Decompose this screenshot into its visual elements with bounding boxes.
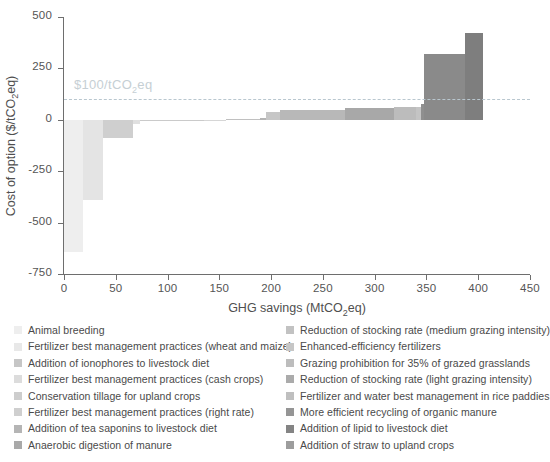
legend-swatch (286, 375, 294, 383)
legend-item: Reduction of stocking rate (light grazin… (286, 371, 550, 387)
legend-label: Fertilizer best management practices (ri… (28, 407, 254, 418)
y-tick-mark (58, 17, 63, 18)
legend-label: Addition of ionophores to livestock diet (28, 358, 209, 369)
y-tick-mark (58, 274, 63, 275)
legend-swatch (286, 343, 294, 351)
x-tick-label: 150 (199, 282, 239, 294)
legend-swatch (286, 326, 294, 334)
bar (83, 120, 104, 201)
y-tick-mark (58, 68, 63, 69)
bar (280, 110, 344, 120)
x-tick-label: 400 (458, 282, 498, 294)
legend-item: Animal breeding (14, 322, 292, 338)
threshold-label: $100/tCO2eq (74, 77, 152, 95)
x-tick-mark (64, 275, 65, 280)
legend-item: Fertilizer best management practices (ri… (14, 404, 292, 420)
legend-column-right: Reduction of stocking rate (medium grazi… (286, 322, 550, 453)
threshold-line (64, 99, 530, 100)
legend-swatch (14, 375, 22, 383)
legend-swatch (286, 425, 294, 433)
legend-item: Anaerobic digestion of manure (14, 437, 292, 453)
legend-label: Enhanced-efficiency fertilizers (300, 341, 441, 352)
x-tick-mark (116, 275, 117, 280)
legend-swatch (14, 326, 22, 334)
x-tick-label: 450 (510, 282, 550, 294)
x-tick-label: 100 (148, 282, 188, 294)
x-tick-label: 0 (44, 282, 84, 294)
legend-item: Enhanced-efficiency fertilizers (286, 338, 550, 354)
legend-swatch (14, 441, 22, 449)
legend-swatch (286, 408, 294, 416)
legend-swatch (14, 408, 22, 416)
legend-swatch (286, 392, 294, 400)
bar (103, 120, 133, 138)
legend-label: Fertilizer best management practices (ca… (28, 374, 263, 385)
legend-label: Fertilizer best management practices (wh… (28, 341, 292, 352)
legend-label: Conservation tillage for upland crops (28, 391, 200, 402)
bar (345, 108, 395, 120)
legend-swatch (286, 359, 294, 367)
legend-label: Reduction of stocking rate (light grazin… (300, 374, 532, 385)
x-tick-mark (530, 275, 531, 280)
legend-swatch (14, 343, 22, 351)
legend-swatch (14, 359, 22, 367)
legend-item: More efficient recycling of organic manu… (286, 404, 550, 420)
x-tick-mark (323, 275, 324, 280)
y-tick-mark (58, 120, 63, 121)
x-tick-mark (478, 275, 479, 280)
x-tick-mark (271, 275, 272, 280)
legend-swatch (14, 392, 22, 400)
x-tick-label: 200 (251, 282, 291, 294)
legend-item: Addition of ionophores to livestock diet (14, 355, 292, 371)
bar (204, 120, 226, 121)
x-axis-line (63, 274, 530, 275)
x-tick-label: 250 (303, 282, 343, 294)
y-tick-label: 250 (12, 60, 52, 72)
legend-label: Anaerobic digestion of manure (28, 440, 172, 451)
x-tick-mark (375, 275, 376, 280)
bar (394, 107, 416, 119)
x-tick-label: 300 (355, 282, 395, 294)
bar (266, 112, 280, 120)
legend: Animal breedingFertilizer best managemen… (0, 322, 549, 462)
y-tick-mark (58, 223, 63, 224)
legend-swatch (14, 425, 22, 433)
y-tick-mark (58, 171, 63, 172)
legend-label: Animal breeding (28, 325, 105, 336)
y-tick-label: 500 (12, 9, 52, 21)
bar (465, 33, 484, 119)
legend-swatch (286, 441, 294, 449)
legend-item: Addition of tea saponins to livestock di… (14, 420, 292, 436)
x-tick-label: 350 (406, 282, 446, 294)
legend-item: Addition of lipid to livestock diet (286, 420, 550, 436)
y-axis-title: Cost of option ($/tCO2eq) (4, 75, 21, 216)
legend-item: Fertilizer and water best management in … (286, 388, 550, 404)
plot-area: $100/tCO2eq 5002500-250-500-750 05010015… (64, 17, 530, 274)
legend-label: Reduction of stocking rate (medium grazi… (300, 325, 550, 336)
x-tick-label: 50 (96, 282, 136, 294)
legend-label: Grazing prohibition for 35% of grazed gr… (300, 358, 530, 369)
legend-item: Conservation tillage for upland crops (14, 388, 292, 404)
bar (64, 120, 83, 253)
bar (226, 119, 260, 120)
legend-label: More efficient recycling of organic manu… (300, 407, 497, 418)
legend-item: Reduction of stocking rate (medium grazi… (286, 322, 550, 338)
legend-item: Fertilizer best management practices (wh… (14, 338, 292, 354)
legend-label: Addition of tea saponins to livestock di… (28, 423, 217, 434)
bar (140, 120, 204, 122)
y-tick-label: -750 (12, 266, 52, 278)
legend-column-left: Animal breedingFertilizer best managemen… (14, 322, 292, 453)
legend-label: Addition of straw to upland crops (300, 440, 454, 451)
bar (424, 54, 464, 120)
legend-label: Fertilizer and water best management in … (300, 391, 549, 402)
x-tick-mark (426, 275, 427, 280)
x-tick-mark (168, 275, 169, 280)
legend-item: Grazing prohibition for 35% of grazed gr… (286, 355, 550, 371)
x-tick-mark (219, 275, 220, 280)
y-tick-label: -500 (12, 215, 52, 227)
x-axis-title: GHG savings (MtCO2eq) (64, 301, 530, 318)
legend-label: Addition of lipid to livestock diet (300, 423, 448, 434)
legend-item: Addition of straw to upland crops (286, 437, 550, 453)
legend-item: Fertilizer best management practices (ca… (14, 371, 292, 387)
